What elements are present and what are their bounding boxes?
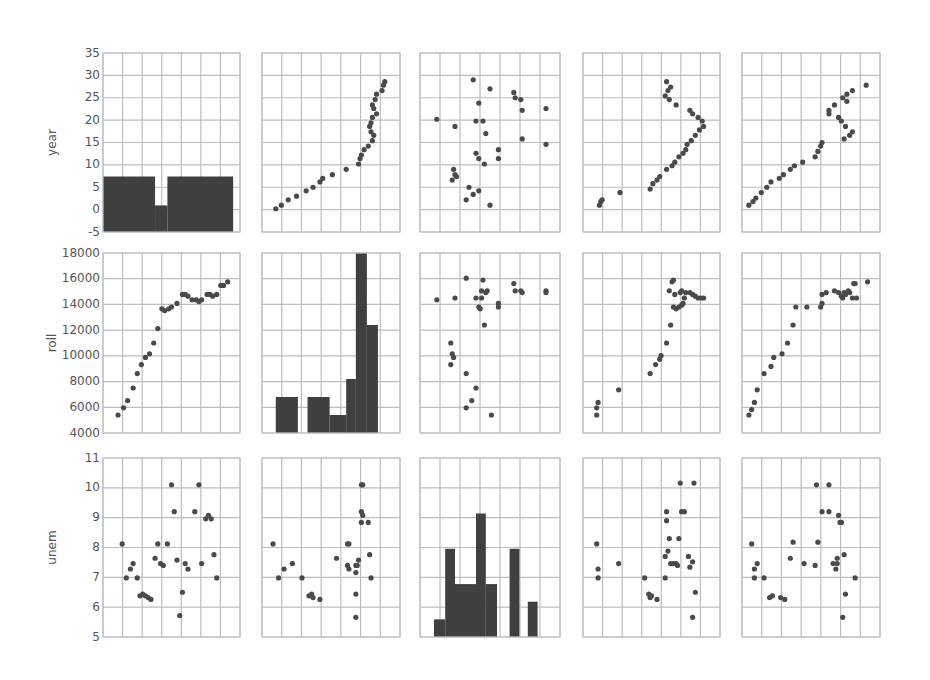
data-point xyxy=(543,290,548,295)
data-point xyxy=(304,188,309,193)
data-point xyxy=(690,559,695,564)
data-point xyxy=(489,412,494,417)
data-point xyxy=(155,326,160,331)
data-point xyxy=(790,540,795,545)
data-point xyxy=(131,561,136,566)
data-point xyxy=(840,95,845,100)
panel-roll-col5 xyxy=(742,253,880,433)
data-point xyxy=(595,400,600,405)
data-point xyxy=(543,106,548,111)
data-point xyxy=(850,129,855,134)
panel-year-col5 xyxy=(742,53,880,232)
data-point xyxy=(353,591,358,596)
data-point xyxy=(693,590,698,595)
data-point xyxy=(451,355,456,360)
data-point xyxy=(843,591,848,596)
data-point xyxy=(368,129,373,134)
data-point xyxy=(513,95,518,100)
data-point xyxy=(853,575,858,580)
data-point xyxy=(478,306,483,311)
data-point xyxy=(165,541,170,546)
data-point xyxy=(824,290,829,295)
data-point xyxy=(374,92,379,97)
data-point xyxy=(356,557,361,562)
histogram-bar xyxy=(528,602,538,637)
data-point xyxy=(120,541,125,546)
data-point xyxy=(353,615,358,620)
data-point xyxy=(366,520,371,525)
data-point xyxy=(155,541,160,546)
data-point xyxy=(683,147,688,152)
data-point xyxy=(844,99,849,104)
y-tick-label: 10 xyxy=(85,157,100,171)
data-point xyxy=(682,509,687,514)
data-point xyxy=(777,176,782,181)
data-point xyxy=(452,124,457,129)
data-point xyxy=(768,364,773,369)
data-point xyxy=(199,561,204,566)
data-point xyxy=(464,371,469,376)
data-point xyxy=(310,185,315,190)
data-point xyxy=(663,554,668,559)
data-point xyxy=(752,400,757,405)
data-point xyxy=(434,297,439,302)
data-point xyxy=(355,563,360,568)
data-point xyxy=(755,387,760,392)
data-point xyxy=(690,615,695,620)
data-point xyxy=(511,281,516,286)
data-point xyxy=(781,172,786,177)
data-point xyxy=(663,575,668,580)
data-point xyxy=(813,563,818,568)
data-point xyxy=(800,160,805,165)
data-point xyxy=(382,79,387,84)
histogram-bar xyxy=(276,397,298,433)
data-point xyxy=(668,322,673,327)
data-point xyxy=(464,405,469,410)
histogram-bar xyxy=(330,415,347,433)
data-point xyxy=(147,351,152,356)
data-point xyxy=(819,509,824,514)
data-point xyxy=(667,288,672,293)
data-point xyxy=(682,295,687,300)
y-tick-label: 16000 xyxy=(62,271,100,285)
panel-unem-col3 xyxy=(420,458,560,637)
data-point xyxy=(359,520,364,525)
data-point xyxy=(782,597,787,602)
data-point xyxy=(511,90,516,95)
panel-unem-col4 xyxy=(583,458,720,637)
data-point xyxy=(779,351,784,356)
y-tick-label: 9 xyxy=(92,510,100,524)
data-point xyxy=(826,482,831,487)
data-point xyxy=(761,371,766,376)
data-point xyxy=(667,97,672,102)
data-point xyxy=(279,203,284,208)
data-point xyxy=(689,138,694,143)
data-point xyxy=(594,541,599,546)
panel-roll-col2 xyxy=(262,253,400,433)
data-point xyxy=(653,362,658,367)
data-point xyxy=(668,84,673,89)
data-point xyxy=(665,548,670,553)
data-point xyxy=(671,277,676,282)
y-axis-label: roll xyxy=(45,334,59,353)
data-point xyxy=(843,124,848,129)
y-tick-label: 7 xyxy=(92,570,100,584)
data-point xyxy=(691,480,696,485)
panel-unem-col2 xyxy=(262,458,400,637)
data-point xyxy=(286,197,291,202)
y-tick-label: 20 xyxy=(85,113,100,127)
data-point xyxy=(174,301,179,306)
data-point xyxy=(813,154,818,159)
data-point xyxy=(513,288,518,293)
data-point xyxy=(520,290,525,295)
data-point xyxy=(842,136,847,141)
data-point xyxy=(664,340,669,345)
data-point xyxy=(674,102,679,107)
y-axis-label: unem xyxy=(45,530,59,564)
data-point xyxy=(664,79,669,84)
data-point xyxy=(790,322,795,327)
data-point xyxy=(648,371,653,376)
y-tick-label: 11 xyxy=(85,451,100,465)
data-point xyxy=(192,509,197,514)
y-tick-label: 35 xyxy=(85,46,100,60)
